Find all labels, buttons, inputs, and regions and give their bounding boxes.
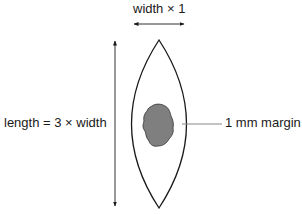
lesion-shape	[143, 104, 173, 146]
margin-label: 1 mm margin	[225, 116, 301, 129]
length-label: length = 3 × width	[4, 116, 107, 129]
excision-diagram	[0, 0, 302, 214]
width-label: width × 1	[133, 2, 185, 15]
